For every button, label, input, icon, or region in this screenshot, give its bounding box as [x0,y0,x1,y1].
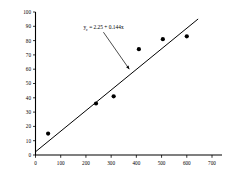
x-tick-label: 600 [183,160,191,166]
y-tick-label: 0 [28,152,31,158]
regression-line [36,19,199,152]
data-point [161,37,165,41]
equation-annotation: yc = 2.25 + 0.144x [83,24,123,32]
scatter-chart: 0102030405060708090100 01002003004005006… [0,0,233,176]
x-tick-label: 200 [82,160,90,166]
chart-canvas: 0102030405060708090100 01002003004005006… [0,0,233,176]
y-tick-label: 60 [26,66,32,72]
x-axis-ticks: 0100200300400500600700 [34,155,216,166]
y-tick-label: 50 [26,80,32,86]
annotation-arrow-head [126,66,129,70]
y-tick-label: 90 [26,23,32,29]
y-tick-label: 80 [26,38,32,44]
x-tick-label: 300 [107,160,115,166]
x-tick-label: 100 [57,160,65,166]
y-tick-label: 10 [26,138,32,144]
x-tick-label: 400 [132,160,140,166]
annotation-arrow-shaft [103,32,129,69]
y-tick-label: 20 [26,123,32,129]
y-tick-label: 70 [26,52,32,58]
x-tick-label: 0 [34,160,37,166]
x-tick-label: 700 [208,160,216,166]
x-tick-label: 500 [158,160,166,166]
data-point [94,101,98,105]
data-point [185,34,189,38]
data-point [46,131,50,135]
data-point [112,94,116,98]
y-tick-label: 100 [23,9,31,15]
y-tick-label: 40 [26,95,32,101]
axis-lines [35,12,222,155]
equation-body: = 2.25 + 0.144x [88,24,124,30]
y-axis-ticks: 0102030405060708090100 [23,9,35,158]
data-point [137,47,141,51]
y-tick-label: 30 [26,109,32,115]
